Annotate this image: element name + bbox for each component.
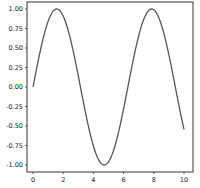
y-tick-label: 0.75 <box>9 25 23 33</box>
sine-curve <box>33 9 184 165</box>
y-tick-label: 1.00 <box>9 5 23 13</box>
x-tick-label: 4 <box>91 176 95 184</box>
y-axis-ticks: 1.000.750.500.250.00-0.25-0.50-0.75-1.00 <box>6 5 27 169</box>
y-tick-label: -0.25 <box>6 103 23 111</box>
x-tick-label: 2 <box>61 176 65 184</box>
y-tick-label: 0.25 <box>9 64 23 72</box>
x-tick-label: 10 <box>180 176 188 184</box>
plot-frame <box>27 2 193 172</box>
y-tick-label: -0.50 <box>6 122 23 130</box>
line-chart: 1.000.750.500.250.00-0.25-0.50-0.75-1.00… <box>0 0 200 188</box>
x-tick-label: 8 <box>152 176 156 184</box>
y-tick-label: 0.50 <box>9 44 23 52</box>
y-tick-label: -0.75 <box>6 142 23 150</box>
x-tick-label: 0 <box>31 176 35 184</box>
y-tick-label: -1.00 <box>6 161 23 169</box>
x-axis-ticks: 0246810 <box>31 172 188 184</box>
y-tick-label: 0.00 <box>9 83 23 91</box>
x-tick-label: 6 <box>122 176 126 184</box>
